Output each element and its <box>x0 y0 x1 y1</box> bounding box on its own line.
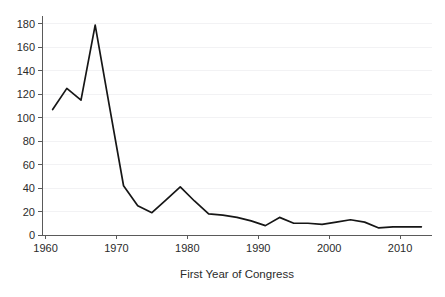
gridlines <box>43 24 432 212</box>
y-tick-label: 100 <box>17 112 35 124</box>
line-chart-svg: 020406080100120140160180 196019701980199… <box>0 0 445 297</box>
y-tick-label: 40 <box>23 182 35 194</box>
y-tick-label: 20 <box>23 206 35 218</box>
plot-area: 020406080100120140160180 196019701980199… <box>0 0 445 297</box>
y-tick-label: 120 <box>17 88 35 100</box>
x-tick-label: 1960 <box>33 242 57 254</box>
y-tick-label: 160 <box>17 41 35 53</box>
chart-figure: 020406080100120140160180 196019701980199… <box>0 0 445 297</box>
x-tick-label: 1980 <box>175 242 199 254</box>
y-tick-label: 0 <box>29 229 35 241</box>
x-axis-title: First Year of Congress <box>180 268 294 280</box>
y-tick-label: 180 <box>17 18 35 30</box>
y-axis-ticks: 020406080100120140160180 <box>17 18 42 241</box>
y-tick-label: 80 <box>23 135 35 147</box>
y-tick-label: 60 <box>23 159 35 171</box>
x-tick-label: 1990 <box>246 242 270 254</box>
x-axis-ticks: 196019701980199020002010 <box>33 235 412 254</box>
x-tick-label: 1970 <box>104 242 128 254</box>
x-tick-label: 2000 <box>317 242 341 254</box>
data-series-line <box>53 25 422 228</box>
x-tick-label: 2010 <box>388 242 412 254</box>
y-tick-label: 140 <box>17 65 35 77</box>
